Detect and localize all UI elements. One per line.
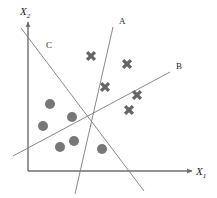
data-point-cross (124, 105, 134, 115)
boundary-label-b: B (176, 62, 182, 71)
axes-group (28, 22, 192, 171)
boundary-label-a: A (119, 17, 126, 26)
data-point-circle (55, 142, 65, 152)
cross-data-points (86, 51, 142, 115)
data-point-cross (132, 90, 142, 100)
data-point-cross (100, 82, 110, 92)
data-point-circle (67, 112, 77, 122)
boundary-line-c (21, 28, 144, 191)
data-point-circle (69, 136, 79, 146)
data-point-circle (38, 121, 48, 131)
data-point-cross (86, 51, 96, 61)
boundary-line-b (13, 72, 170, 156)
y-axis-label: X2 (20, 6, 30, 20)
data-point-circle (97, 144, 107, 154)
decision-boundary-diagram: X2 X1 A B C (0, 0, 217, 198)
boundary-lines-group (13, 27, 170, 194)
diagram-canvas (0, 0, 217, 198)
data-point-cross (122, 59, 132, 69)
data-point-circle (45, 99, 55, 109)
boundary-label-c: C (46, 41, 52, 50)
x-axis-label: X1 (196, 166, 206, 180)
circle-data-points (38, 99, 107, 154)
